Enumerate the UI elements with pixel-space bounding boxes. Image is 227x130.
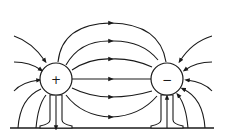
electric-field-diagram: + −: [0, 0, 227, 130]
field-lines-between: [58, 23, 166, 117]
positive-sign: +: [51, 73, 61, 87]
negative-sign: −: [162, 73, 172, 87]
